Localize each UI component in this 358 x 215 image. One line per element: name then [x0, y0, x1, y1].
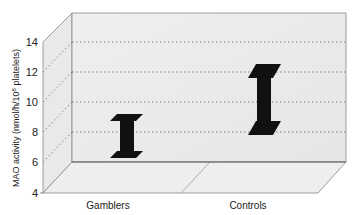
y-axis-label: MAO activity (nmol/h/108 platelets): [11, 49, 21, 187]
x-label-gamblers: Gamblers: [86, 200, 129, 211]
y-tick-6: 6: [32, 156, 38, 168]
floor: [43, 162, 346, 193]
y-tick-8: 8: [32, 126, 38, 138]
x-label-controls: Controls: [229, 200, 266, 211]
y-tick-4: 4: [32, 187, 38, 199]
back-wall: [72, 13, 346, 162]
side-wall: [43, 13, 72, 193]
y-tick-10: 10: [26, 96, 38, 108]
y-tick-14: 14: [26, 36, 38, 48]
y-tick-12: 12: [26, 66, 38, 78]
y-axis: 4 6 8 10 12 14: [26, 36, 43, 199]
chart-canvas: 4 6 8 10 12 14 MAO activity (nmol/h/108 …: [0, 0, 358, 215]
